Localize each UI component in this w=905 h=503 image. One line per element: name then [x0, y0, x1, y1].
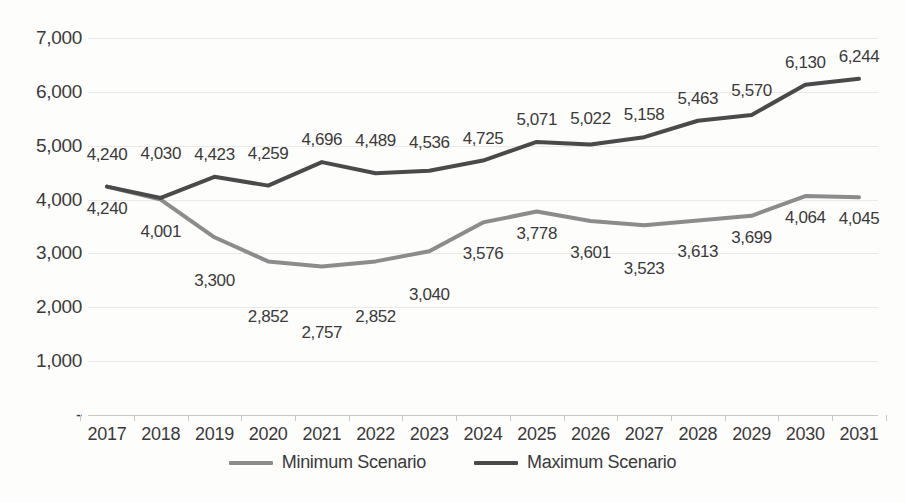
- x-axis-tick-mark: [456, 415, 457, 421]
- line-chart: 7,0006,0005,0004,0003,0002,0001,000- 4,2…: [0, 0, 905, 503]
- x-axis-tick-mark: [725, 415, 726, 421]
- series-line-maximum-scenario: [107, 79, 859, 198]
- legend-label: Maximum Scenario: [527, 452, 676, 473]
- y-axis-tick-label: -: [10, 404, 82, 426]
- y-axis-tick-label: 4,000: [10, 189, 82, 211]
- y-axis-tick-label: 6,000: [10, 81, 82, 103]
- x-axis-tick-label: 2022: [356, 424, 395, 445]
- x-axis-tick-label: 2025: [517, 424, 556, 445]
- x-axis-tick-label: 2026: [571, 424, 610, 445]
- x-axis-tick-label: 2021: [302, 424, 341, 445]
- x-axis-tick-mark: [402, 415, 403, 421]
- legend-line-swatch-icon: [229, 461, 273, 465]
- y-axis-tick-label: 3,000: [10, 242, 82, 264]
- y-axis-tick-label: 7,000: [10, 27, 82, 49]
- x-axis-tick-label: 2017: [88, 424, 127, 445]
- x-axis-tick-label: 2024: [464, 424, 503, 445]
- x-axis-tick-mark: [349, 415, 350, 421]
- chart-legend: Minimum ScenarioMaximum Scenario: [0, 452, 905, 473]
- x-axis-tick-label: 2028: [678, 424, 717, 445]
- x-axis-tick-mark: [295, 415, 296, 421]
- x-axis-tick-mark: [617, 415, 618, 421]
- x-axis-tick-mark: [80, 415, 81, 421]
- x-axis-tick-mark: [564, 415, 565, 421]
- plot-area: 4,2404,0013,3002,8522,7572,8523,0403,576…: [88, 38, 878, 415]
- x-axis-tick-label: 2031: [840, 424, 879, 445]
- x-axis-tick-label: 2027: [625, 424, 664, 445]
- x-axis: 2017201820192020202120222023202420252026…: [88, 415, 878, 445]
- legend-entry[interactable]: Minimum Scenario: [229, 452, 426, 473]
- x-axis-tick-mark: [188, 415, 189, 421]
- x-axis-tick-mark: [886, 415, 887, 421]
- legend-line-swatch-icon: [474, 461, 518, 465]
- legend-entry[interactable]: Maximum Scenario: [474, 452, 676, 473]
- x-axis-tick-mark: [134, 415, 135, 421]
- x-axis-tick-mark: [671, 415, 672, 421]
- y-axis-tick-label: 2,000: [10, 296, 82, 318]
- y-axis-tick-label: 1,000: [10, 350, 82, 372]
- x-axis-tick-label: 2020: [249, 424, 288, 445]
- x-axis-tick-label: 2019: [195, 424, 234, 445]
- series-svg: [88, 38, 878, 415]
- x-axis-tick-label: 2030: [786, 424, 825, 445]
- x-axis-tick-mark: [241, 415, 242, 421]
- x-axis-tick-mark: [778, 415, 779, 421]
- series-line-minimum-scenario: [107, 187, 859, 267]
- y-axis-tick-label: 5,000: [10, 135, 82, 157]
- y-axis: 7,0006,0005,0004,0003,0002,0001,000-: [0, 38, 82, 415]
- x-axis-tick-mark: [832, 415, 833, 421]
- x-axis-tick-mark: [510, 415, 511, 421]
- x-axis-tick-label: 2023: [410, 424, 449, 445]
- x-axis-tick-label: 2029: [732, 424, 771, 445]
- x-axis-tick-label: 2018: [141, 424, 180, 445]
- legend-label: Minimum Scenario: [282, 452, 426, 473]
